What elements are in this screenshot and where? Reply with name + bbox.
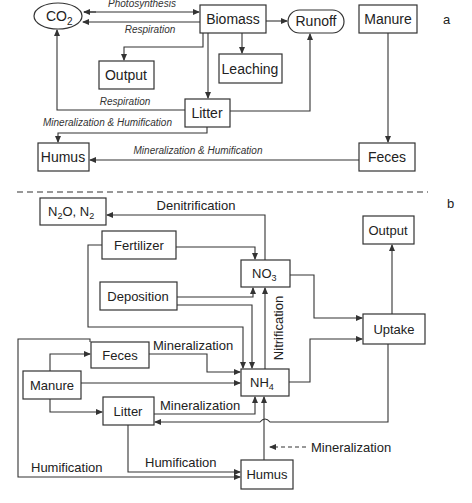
node-output-a: Output bbox=[99, 61, 154, 89]
arrow-litter-humus bbox=[58, 127, 207, 142]
arrow-deposition-nh4 bbox=[177, 305, 252, 368]
arrow-no3-uptake bbox=[290, 275, 362, 318]
label-min-feces: Mineralization bbox=[153, 338, 233, 353]
panel-b-label: b bbox=[447, 196, 454, 211]
node-manure-b: Manure bbox=[23, 371, 81, 399]
label-photosynthesis: Photosynthesis bbox=[108, 0, 176, 9]
label-min-litter: Mineralization bbox=[160, 398, 240, 413]
node-no3: NO3 bbox=[241, 260, 290, 287]
arrow-manure-feces-b bbox=[50, 354, 90, 371]
svg-text:Runoff: Runoff bbox=[296, 13, 337, 29]
node-n2o-n2: N2O, N2 bbox=[40, 198, 106, 225]
label-min-hum-feces: Mineralization & Humification bbox=[134, 145, 263, 156]
label-hum-litter: Humification bbox=[145, 455, 217, 470]
label-nitrification: Nitrification bbox=[271, 296, 286, 360]
arrow-fertilizer-no3 bbox=[176, 247, 255, 259]
svg-text:Feces: Feces bbox=[102, 348, 138, 363]
svg-text:Output: Output bbox=[105, 67, 147, 83]
node-fertilizer: Fertilizer bbox=[102, 231, 176, 259]
label-min-hum-litter: Mineralization & Humification bbox=[43, 117, 172, 128]
label-min-humus: Mineralization bbox=[311, 440, 391, 455]
svg-text:Output: Output bbox=[368, 223, 407, 238]
svg-text:Humus: Humus bbox=[41, 149, 85, 165]
svg-text:Humus: Humus bbox=[246, 467, 288, 482]
label-denitrification: Denitrification bbox=[157, 198, 236, 213]
arrow-deposition-no3 bbox=[177, 288, 253, 297]
svg-text:Deposition: Deposition bbox=[107, 289, 168, 304]
nutrient-cycle-diagram: CO2 Biomass Runoff Manure a Output Leach… bbox=[0, 0, 472, 503]
svg-text:Leaching: Leaching bbox=[222, 61, 279, 77]
svg-text:Feces: Feces bbox=[368, 149, 406, 165]
node-feces-a: Feces bbox=[359, 143, 415, 171]
node-co2: CO2 bbox=[34, 3, 82, 29]
svg-text:Manure: Manure bbox=[364, 11, 412, 27]
svg-text:Uptake: Uptake bbox=[373, 322, 414, 337]
svg-text:Litter: Litter bbox=[114, 404, 144, 419]
node-humus-b: Humus bbox=[241, 460, 293, 489]
arrow-manure-litter bbox=[50, 399, 102, 412]
label-hum-manure: Humification bbox=[31, 460, 103, 475]
svg-text:Biomass: Biomass bbox=[206, 11, 260, 27]
panel-a: CO2 Biomass Runoff Manure a Output Leach… bbox=[34, 0, 451, 171]
node-manure-a: Manure bbox=[359, 5, 417, 33]
node-output-b: Output bbox=[363, 216, 414, 244]
node-uptake: Uptake bbox=[363, 314, 425, 344]
svg-text:Litter: Litter bbox=[191, 105, 222, 121]
panel-b: b N2O, N2 Denitrification Output Fertili… bbox=[18, 196, 454, 489]
label-respiration-litter: Respiration bbox=[100, 96, 151, 107]
node-litter-a: Litter bbox=[185, 99, 230, 127]
node-feces-b: Feces bbox=[91, 342, 149, 368]
svg-text:N2O, N2: N2O, N2 bbox=[48, 204, 94, 221]
node-nh4: NH4 bbox=[241, 369, 289, 396]
arrow-biomass-output bbox=[124, 33, 203, 60]
panel-a-label: a bbox=[443, 12, 451, 27]
label-respiration-biomass: Respiration bbox=[125, 24, 176, 35]
node-leaching: Leaching bbox=[219, 54, 282, 83]
node-deposition: Deposition bbox=[100, 282, 177, 310]
arrow-nh4-uptake bbox=[289, 339, 362, 382]
node-runoff: Runoff bbox=[288, 10, 344, 33]
arrow-feces-nh4 bbox=[149, 354, 240, 372]
node-litter-b: Litter bbox=[103, 397, 154, 425]
svg-text:Manure: Manure bbox=[30, 378, 74, 393]
svg-text:Fertilizer: Fertilizer bbox=[114, 238, 165, 253]
node-biomass: Biomass bbox=[200, 5, 266, 33]
node-humus-a: Humus bbox=[38, 143, 89, 171]
